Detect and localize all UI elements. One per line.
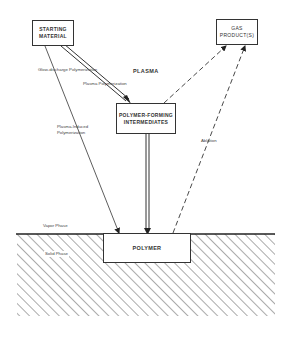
node-starting-material: STARTING MATERIAL [32, 20, 74, 46]
label-vapor-phase: Vapor Phase [43, 223, 68, 229]
diagram-canvas [0, 0, 288, 338]
starting-material-line1: STARTING [39, 26, 67, 33]
edge-plasma-induced [45, 46, 119, 233]
starting-material-line2: MATERIAL [39, 33, 67, 40]
node-gas-products: GAS PRODUCT(S) [216, 19, 258, 45]
gas-products-line2: PRODUCT(S) [220, 32, 254, 39]
label-plasma-induced-2: Polymerization [57, 130, 85, 136]
edge-intermediates-to-gas [164, 46, 226, 103]
label-plasma-induced-1: Plasma-Induced [57, 124, 88, 130]
intermediates-line1: POLYMER-FORMING [119, 112, 173, 119]
edge-plasma-polymerization [61, 44, 131, 104]
label-plasma-polymerization: Plasma Polymerization [83, 81, 127, 87]
gas-products-line1: GAS [231, 25, 242, 32]
intermediates-line2: INTERMEDIATES [124, 119, 168, 126]
label-solid-phase: Solid Phase [44, 251, 69, 257]
polymer-label: POLYMER [133, 245, 162, 252]
node-polymer: POLYMER [103, 233, 191, 263]
label-glow-discharge: Glow-discharge Polymerization [38, 67, 97, 73]
label-ablation: Ablation [201, 138, 217, 144]
edge-intermediates-to-polymer [144, 133, 151, 235]
node-polymer-forming-intermediates: POLYMER-FORMING INTERMEDIATES [116, 103, 176, 134]
label-plasma: PLASMA [133, 69, 159, 75]
